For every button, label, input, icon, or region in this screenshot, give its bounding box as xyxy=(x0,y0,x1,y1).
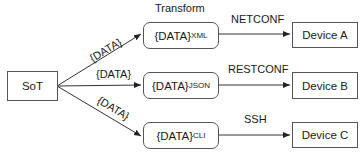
sot-label: SoT xyxy=(22,80,43,92)
transform-label: Transform xyxy=(155,2,205,14)
arrow-sot-to-json xyxy=(57,85,141,86)
protocol-ssh: SSH xyxy=(244,113,267,125)
device-b-box: Device B xyxy=(292,72,358,99)
transform-cli-box: {DATA}CLI xyxy=(143,122,219,149)
transform-json-base: {DATA} xyxy=(152,80,189,92)
transform-json-box: {DATA}JSON xyxy=(143,72,219,99)
transform-xml-base: {DATA} xyxy=(154,30,191,42)
device-c-box: Device C xyxy=(292,122,358,148)
transform-xml-box: {DATA}XML xyxy=(143,22,219,49)
transform-json-sub: JSON xyxy=(189,81,210,90)
edge-label-json: {DATA} xyxy=(96,68,131,80)
sot-box: SoT xyxy=(7,71,58,101)
device-c-label: Device C xyxy=(302,129,349,141)
protocol-restconf: RESTCONF xyxy=(228,63,289,75)
device-a-label: Device A xyxy=(302,29,347,41)
protocol-netconf: NETCONF xyxy=(231,13,284,25)
transform-cli-base: {DATA} xyxy=(156,130,193,142)
device-b-label: Device B xyxy=(302,80,348,92)
transform-cli-sub: CLI xyxy=(193,131,205,140)
transform-xml-sub: XML xyxy=(191,31,207,40)
device-a-box: Device A xyxy=(292,22,358,48)
